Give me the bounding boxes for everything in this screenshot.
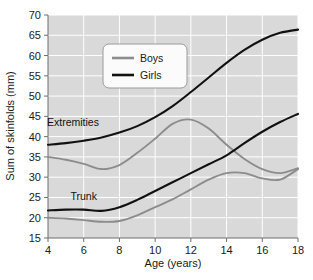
chart-legend: Boys Girls [103,44,187,88]
y-tick-label: 15 [29,232,41,244]
x-tick-label: 10 [149,244,161,256]
y-tick-label: 25 [29,191,41,203]
x-tick-label: 4 [45,244,51,256]
y-tick-label: 55 [29,70,41,82]
y-tick-label: 60 [29,50,41,62]
chart-figure: 152025303540455055606570 4681012141618 E… [0,0,313,280]
x-tick-label: 12 [185,244,197,256]
y-tick-label: 65 [29,29,41,41]
legend-background [103,44,187,88]
y-axis-title: Sum of skinfolds (mm) [4,71,16,180]
y-tick-label: 20 [29,212,41,224]
x-tick-label: 16 [256,244,268,256]
x-tick-label: 8 [116,244,122,256]
legend-label-boys: Boys [140,52,163,64]
y-tick-label: 70 [29,9,41,21]
y-tick-label: 35 [29,151,41,163]
skinfolds-line-chart: 152025303540455055606570 4681012141618 E… [0,0,313,280]
x-tick-label: 18 [292,244,304,256]
y-tick-label: 40 [29,131,41,143]
annotation-trunk: Trunk [70,190,97,202]
x-tick-label: 14 [220,244,232,256]
y-tick-label: 30 [29,171,41,183]
annotation-extremities: Extremities [47,116,99,128]
y-tick-label: 45 [29,110,41,122]
x-tick-label: 6 [81,244,87,256]
x-axis-title: Age (years) [145,257,202,269]
legend-label-girls: Girls [140,69,162,81]
y-tick-label: 50 [29,90,41,102]
